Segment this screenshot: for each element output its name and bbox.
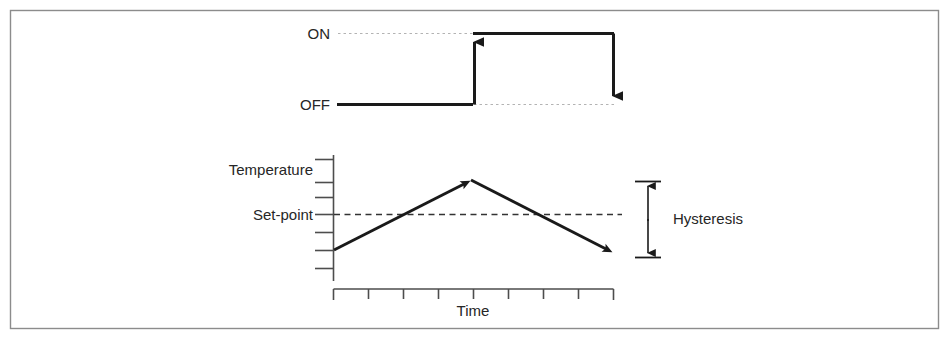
off-label: OFF xyxy=(300,96,330,113)
set-point-axis-label: Set-point xyxy=(253,206,314,223)
diagram-canvas: ON OFF Temperature Set-point xyxy=(0,0,949,340)
on-label: ON xyxy=(308,25,331,42)
hysteresis-diagram: ON OFF Temperature Set-point xyxy=(0,0,949,340)
time-axis-label: Time xyxy=(457,302,490,319)
hysteresis-label: Hysteresis xyxy=(673,210,743,227)
temperature-axis-label: Temperature xyxy=(229,161,313,178)
